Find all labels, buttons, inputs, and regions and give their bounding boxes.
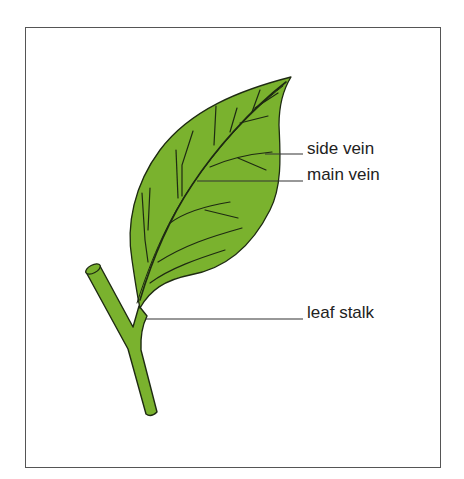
- label-side-vein: side vein: [307, 140, 374, 157]
- leaf-blade: [130, 77, 291, 308]
- label-leaf-stalk: leaf stalk: [307, 304, 374, 321]
- leaf-illustration: [0, 0, 464, 479]
- label-main-vein: main vein: [307, 166, 380, 183]
